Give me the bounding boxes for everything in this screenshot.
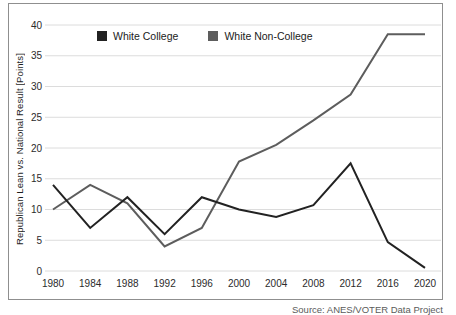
y-tick-label-5: 5 <box>36 235 42 246</box>
legend-label-white-college: White College <box>113 30 178 42</box>
x-tick-label-1992: 1992 <box>153 278 176 289</box>
x-tick-label-2016: 2016 <box>377 278 400 289</box>
y-tick-label-10: 10 <box>31 204 43 215</box>
legend-item-white-college: White College <box>97 30 178 42</box>
source-caption: Source: ANES/VOTER Data Project <box>292 304 443 315</box>
y-tick-label-30: 30 <box>31 81 43 92</box>
legend: White College White Non-College <box>97 30 313 42</box>
legend-swatch-white-college-icon <box>97 31 107 41</box>
x-tick-label-1988: 1988 <box>116 278 139 289</box>
line-chart: 0510152025303540198019841988199219962000… <box>9 4 442 299</box>
x-tick-label-2000: 2000 <box>228 278 251 289</box>
legend-swatch-white-non-college-icon <box>208 31 218 41</box>
chart-figure: 0510152025303540198019841988199219962000… <box>8 3 443 300</box>
x-tick-label-1996: 1996 <box>191 278 214 289</box>
y-axis-title: Republican Lean vs. National Result [Poi… <box>12 4 26 294</box>
x-tick-label-2008: 2008 <box>302 278 325 289</box>
x-tick-label-2020: 2020 <box>414 278 437 289</box>
x-tick-label-2012: 2012 <box>339 278 362 289</box>
x-tick-label-1980: 1980 <box>42 278 65 289</box>
y-tick-label-15: 15 <box>31 173 43 184</box>
legend-item-white-non-college: White Non-College <box>208 30 312 42</box>
x-tick-label-2004: 2004 <box>265 278 288 289</box>
x-tick-label-1984: 1984 <box>79 278 102 289</box>
y-tick-label-0: 0 <box>36 266 42 277</box>
legend-label-white-non-college: White Non-College <box>224 30 312 42</box>
y-tick-label-35: 35 <box>31 50 43 61</box>
series-line-white-non-college <box>53 34 425 246</box>
y-tick-label-25: 25 <box>31 112 43 123</box>
y-tick-label-40: 40 <box>31 20 43 31</box>
y-tick-label-20: 20 <box>31 143 43 154</box>
